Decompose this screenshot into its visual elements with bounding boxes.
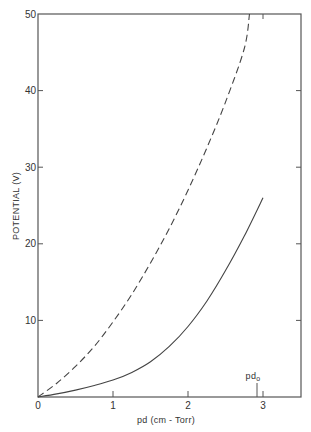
x-axis-ticks: [113, 391, 263, 397]
pd0-label: pdo: [246, 371, 261, 382]
x-tick-0: 0: [35, 400, 41, 411]
y-axis-title: POTENTIAL (V): [11, 172, 21, 240]
solid-series-line: [38, 198, 263, 397]
chart-canvas: 50 40 30 20 10 0 1 2 3 POTENTIAL (V) pd …: [0, 0, 311, 432]
plot-frame: [38, 14, 301, 397]
x-tick-3: 3: [260, 400, 266, 411]
y-tick-40: 40: [25, 85, 37, 96]
x-tick-1: 1: [110, 400, 116, 411]
y-tick-50: 50: [25, 9, 37, 20]
y-tick-30: 30: [25, 162, 37, 173]
y-tick-10: 10: [25, 315, 37, 326]
y-axis-ticks: [38, 14, 301, 320]
y-tick-20: 20: [25, 238, 37, 249]
x-tick-2: 2: [185, 400, 191, 411]
x-axis-title: pd (cm - Torr): [137, 415, 195, 425]
dashed-series-line: [38, 14, 250, 397]
